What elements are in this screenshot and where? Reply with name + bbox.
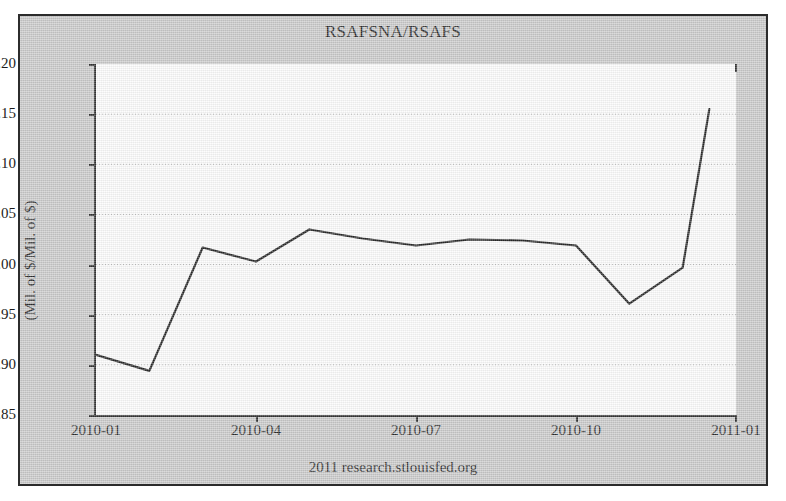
x-tick-label: 2010-04 bbox=[196, 422, 316, 439]
y-tick-mark bbox=[89, 214, 96, 216]
y-tick-label: 1.10 bbox=[0, 155, 16, 172]
x-axis-end-mark bbox=[735, 415, 737, 422]
y-tick-label: 0.85 bbox=[0, 406, 16, 423]
y-tick-mark bbox=[89, 164, 96, 166]
x-tick-mark bbox=[576, 415, 578, 422]
y-tick-label: 1.05 bbox=[0, 205, 16, 222]
y-tick-label: 1.20 bbox=[0, 55, 16, 72]
y-tick-label: 0.90 bbox=[0, 356, 16, 373]
source-footer: 2011 research.stlouisfed.org bbox=[20, 459, 766, 476]
plot-area: 0.850.900.951.001.051.101.151.202010-012… bbox=[94, 64, 736, 417]
y-tick-mark bbox=[89, 265, 96, 267]
y-tick-mark bbox=[89, 114, 96, 116]
y-tick-label: 1.00 bbox=[0, 256, 16, 273]
x-tick-label: 2010-10 bbox=[516, 422, 636, 439]
y-tick-mark bbox=[89, 415, 96, 417]
y-tick-mark bbox=[89, 64, 96, 66]
y-tick-mark bbox=[89, 315, 96, 317]
x-tick-label: 2010-01 bbox=[36, 422, 156, 439]
y-tick-label: 0.95 bbox=[0, 306, 16, 323]
y-tick-label: 1.15 bbox=[0, 105, 16, 122]
x-tick-label: 2011-01 bbox=[676, 422, 786, 439]
x-tick-mark bbox=[256, 415, 258, 422]
x-tick-mark bbox=[416, 415, 418, 422]
plot-frame-right-tick bbox=[735, 64, 737, 72]
x-tick-label: 2010-07 bbox=[356, 422, 476, 439]
axis-ticks-layer: 0.850.900.951.001.051.101.151.202010-012… bbox=[96, 64, 736, 415]
chart-title: RSAFSNA/RSAFS bbox=[20, 22, 766, 42]
y-tick-mark bbox=[89, 365, 96, 367]
chart-figure: RSAFSNA/RSAFS (Mil. of $/Mil. of $) 0.85… bbox=[18, 14, 768, 486]
y-axis-label: (Mil. of $/Mil. of $) bbox=[22, 146, 39, 376]
